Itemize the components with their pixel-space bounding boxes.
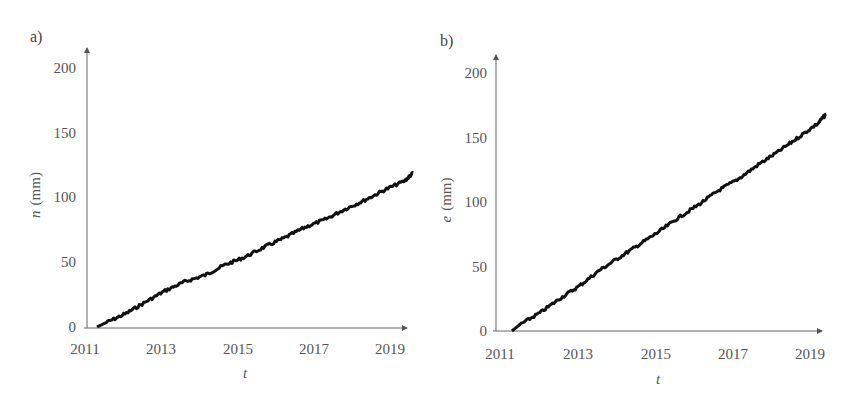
x-tick: 2011 bbox=[485, 346, 514, 362]
panel-a-y-label: n(mm) bbox=[27, 172, 44, 218]
figure: a) 0 50 100 150 200 2011 2013 2015 2017 … bbox=[0, 0, 855, 404]
svg-text:n(mm): n(mm) bbox=[27, 172, 44, 218]
y-tick: 150 bbox=[54, 125, 77, 141]
y-tick: 100 bbox=[54, 189, 77, 205]
panel-b: b) 0 50 100 150 200 2011 2013 2015 2017 … bbox=[438, 32, 826, 387]
svg-text:e(mm): e(mm) bbox=[438, 177, 455, 222]
panel-b-series-line bbox=[512, 114, 826, 331]
x-tick: 2011 bbox=[70, 341, 99, 357]
panel-b-y-label: e(mm) bbox=[438, 177, 455, 222]
y-tick: 50 bbox=[61, 254, 76, 270]
y-tick: 0 bbox=[69, 319, 77, 335]
panel-b-label: b) bbox=[440, 32, 453, 50]
y-tick: 50 bbox=[472, 259, 487, 275]
x-tick: 2013 bbox=[563, 346, 593, 362]
panel-b-x-ticks: 2011 2013 2015 2017 2019 bbox=[485, 346, 825, 362]
panel-a-x-label: t bbox=[243, 365, 248, 381]
panel-a-label: a) bbox=[30, 28, 42, 46]
panel-a-y-ticks: 0 50 100 150 200 bbox=[54, 60, 77, 335]
panel-a-x-ticks: 2011 2013 2015 2017 2019 bbox=[70, 341, 405, 357]
x-tick: 2015 bbox=[223, 341, 253, 357]
y-tick: 100 bbox=[465, 194, 488, 210]
x-tick: 2019 bbox=[375, 341, 405, 357]
x-tick: 2019 bbox=[795, 346, 825, 362]
panel-a: a) 0 50 100 150 200 2011 2013 2015 2017 … bbox=[27, 28, 413, 381]
y-tick: 150 bbox=[465, 130, 488, 146]
y-tick: 200 bbox=[54, 60, 77, 76]
x-tick: 2015 bbox=[641, 346, 671, 362]
x-tick: 2017 bbox=[718, 346, 749, 362]
y-tick: 200 bbox=[465, 65, 488, 81]
panel-b-x-label: t bbox=[656, 371, 661, 387]
y-tick: 0 bbox=[480, 323, 488, 339]
panel-a-series-line bbox=[97, 172, 413, 327]
panel-b-y-ticks: 0 50 100 150 200 bbox=[465, 65, 488, 339]
x-tick: 2013 bbox=[146, 341, 176, 357]
x-tick: 2017 bbox=[299, 341, 330, 357]
